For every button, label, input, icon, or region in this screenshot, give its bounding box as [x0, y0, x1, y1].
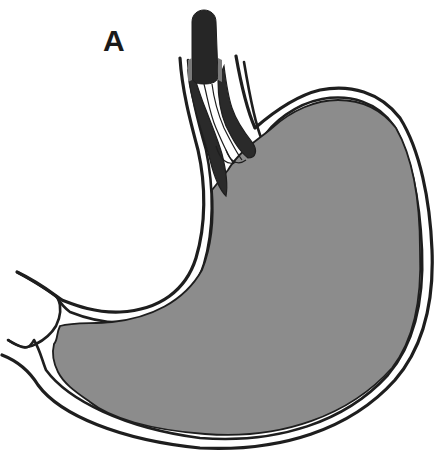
panel-label: A — [103, 26, 125, 56]
duodenum — [8, 272, 60, 347]
stomach-diagram — [0, 0, 434, 454]
endoscope-tube — [192, 10, 218, 84]
endoscope — [188, 10, 222, 84]
stomach-lumen — [53, 100, 420, 435]
